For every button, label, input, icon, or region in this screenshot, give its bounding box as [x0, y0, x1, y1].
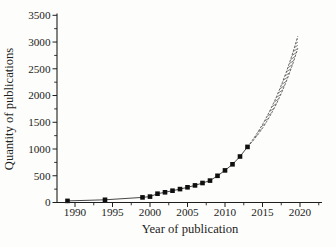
publications-growth-figure: 1990199520002005201020152020050010001500… [0, 0, 336, 247]
data-point-square [223, 168, 228, 173]
data-points [65, 145, 250, 204]
band-upper-edge [248, 36, 298, 147]
y-tick-label: 0 [45, 196, 51, 208]
data-point-square [230, 162, 235, 167]
data-point-square [200, 181, 205, 186]
data-point-square [208, 178, 213, 183]
axes: 1990199520002005201020152020050010001500… [28, 9, 322, 218]
data-point-square [163, 190, 168, 195]
data-point-square [245, 145, 250, 150]
y-tick-label: 2000 [28, 89, 51, 101]
y-tick-label: 2500 [28, 63, 51, 75]
x-tick-label: 2005 [176, 206, 199, 218]
x-tick-label: 2020 [289, 206, 312, 218]
data-point-square [193, 183, 198, 188]
y-tick-label: 1500 [28, 116, 51, 128]
x-tick-label: 2010 [214, 206, 237, 218]
data-point-square [185, 185, 190, 190]
y-axis-title: Quantity of publications [2, 48, 16, 171]
x-tick-label: 1995 [101, 206, 124, 218]
y-tick-label: 500 [34, 170, 51, 182]
x-tick-label: 1990 [64, 206, 87, 218]
data-point-square [148, 194, 153, 199]
data-point-square [155, 191, 160, 196]
chart-canvas: 1990199520002005201020152020050010001500… [0, 0, 336, 247]
band-fill [248, 36, 298, 147]
projection-band [248, 36, 298, 147]
x-tick-label: 2000 [139, 206, 162, 218]
data-point-square [238, 154, 243, 159]
x-axis-title: Year of publication [142, 222, 239, 236]
data-point-square [103, 198, 108, 203]
y-tick-label: 1000 [28, 143, 51, 155]
data-point-square [170, 188, 175, 193]
y-tick-label: 3000 [28, 36, 51, 48]
data-point-square [215, 174, 220, 179]
data-point-square [140, 195, 145, 200]
data-point-square [178, 187, 183, 192]
y-tick-label: 3500 [28, 9, 51, 21]
x-tick-label: 2015 [251, 206, 274, 218]
